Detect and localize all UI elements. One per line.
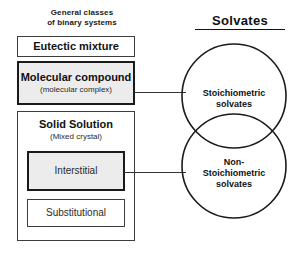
interstitial-box: Interstitial [27, 151, 125, 191]
solid-solution-heading: Solid Solution (Mixed crystal) [18, 118, 134, 142]
solid-solution-sublabel: (Mixed crystal) [18, 132, 134, 142]
eutectic-mixture-box: Eutectic mixture [17, 36, 135, 57]
molecular-compound-label: Molecular compound [21, 71, 132, 84]
eutectic-mixture-label: Eutectic mixture [33, 40, 119, 53]
solid-solution-label: Solid Solution [18, 118, 134, 131]
substitutional-box: Substitutional [27, 199, 125, 227]
molecular-compound-sublabel: (molecular complex) [40, 85, 112, 95]
interstitial-label: Interstitial [55, 165, 98, 177]
substitutional-label: Substitutional [46, 207, 106, 219]
connector-interstitial-to-nonstoichiometric [124, 172, 186, 173]
molecular-compound-box: Molecular compound (molecular complex) [17, 61, 135, 105]
stoichiometric-circle-label: Stoichiometricsolvates [186, 88, 282, 110]
venn-diagram [178, 43, 296, 223]
diagram-canvas: General classesof binary systems Solvate… [0, 0, 299, 253]
left-column-caption: General classesof binary systems [22, 8, 142, 28]
solvates-title: Solvates [195, 13, 285, 30]
non-stoichiometric-circle-label: Non-Stoichiometricsolvates [186, 157, 282, 190]
